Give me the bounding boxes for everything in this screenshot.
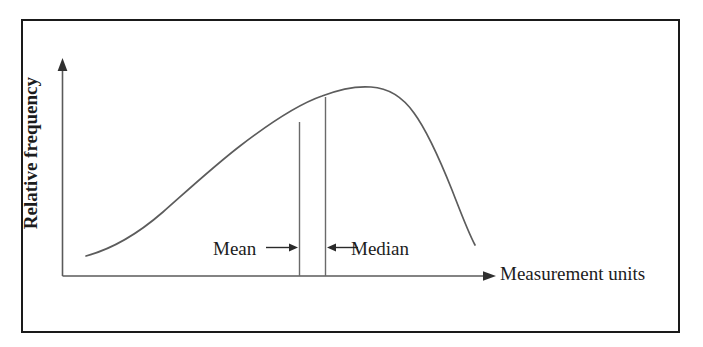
- distribution-curve: [86, 87, 475, 256]
- x-axis-arrowhead-icon: [483, 271, 496, 281]
- plot-canvas: [0, 0, 703, 347]
- x-axis-title: Measurement units: [500, 264, 645, 283]
- x-axis: [63, 271, 497, 281]
- y-axis-title: Relative frequency: [21, 77, 40, 229]
- mean-pointer-arrow-icon: [266, 243, 298, 251]
- median-annotation-label: Median: [351, 239, 409, 258]
- mean-annotation-label: Mean: [213, 239, 256, 258]
- figure-root: Relative frequency Measurement units Mea…: [0, 0, 703, 347]
- y-axis: [58, 58, 68, 276]
- y-axis-arrowhead-icon: [58, 58, 68, 71]
